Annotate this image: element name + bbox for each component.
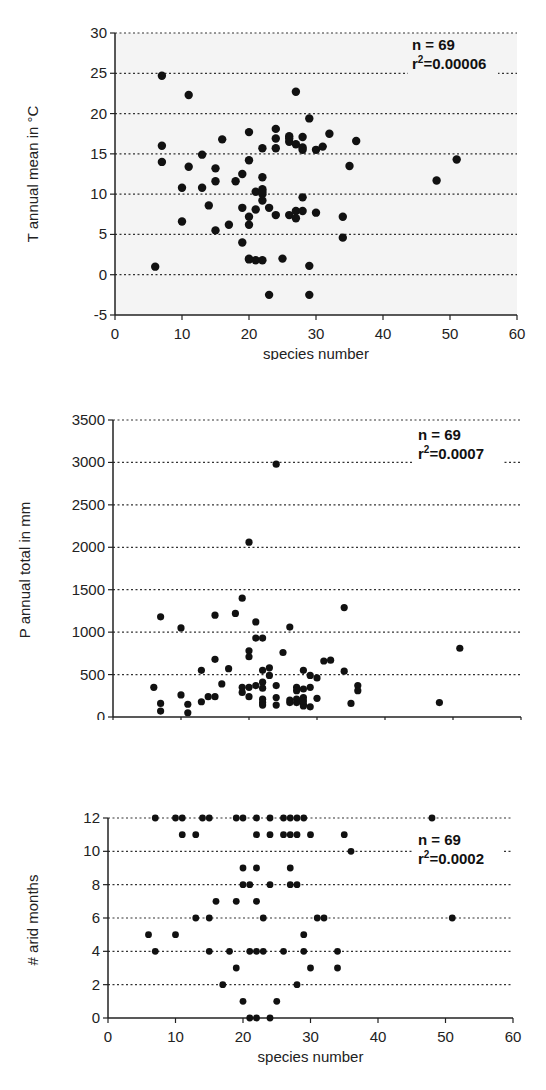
data-point [219, 981, 226, 988]
data-point [300, 697, 307, 704]
data-point [206, 815, 213, 822]
data-point [239, 689, 246, 696]
data-point [314, 915, 321, 922]
data-point [198, 150, 206, 158]
data-point [307, 831, 314, 838]
data-point [213, 898, 220, 905]
data-point [233, 965, 240, 972]
data-point [238, 204, 246, 212]
data-point [352, 137, 360, 145]
data-point [253, 865, 260, 872]
data-point [298, 193, 306, 201]
data-point [240, 881, 247, 888]
data-point [225, 221, 233, 229]
data-point [205, 693, 212, 700]
data-point [179, 831, 186, 838]
data-point [258, 188, 266, 196]
data-point [211, 612, 218, 619]
y-tick-label: -5 [94, 306, 107, 323]
data-point [184, 701, 191, 708]
y-tick-label: 5 [99, 225, 107, 242]
data-point [199, 815, 206, 822]
data-point [273, 998, 280, 1005]
y-tick-label: 2000 [72, 538, 105, 555]
data-point [449, 915, 456, 922]
data-point [152, 948, 159, 955]
y-tick-label: 2 [92, 976, 100, 993]
x-tick-label: 30 [308, 325, 325, 342]
data-point [300, 815, 307, 822]
data-point [157, 700, 164, 707]
y-tick-label: 25 [90, 64, 107, 81]
chart-temperature: -50510152025300102030405060species numbe… [0, 0, 546, 360]
data-point [185, 163, 193, 171]
y-tick-label: 15 [90, 145, 107, 162]
data-point [267, 881, 274, 888]
y-tick-label: 0 [92, 1009, 100, 1026]
data-point [211, 693, 218, 700]
x-tick-label: 60 [509, 325, 526, 342]
data-point [300, 948, 307, 955]
data-point [300, 685, 307, 692]
data-point [151, 262, 159, 270]
data-point [172, 815, 179, 822]
data-point [218, 135, 226, 143]
data-point [252, 618, 259, 625]
plot-area [115, 33, 517, 315]
data-point [305, 114, 313, 122]
data-point [231, 177, 239, 185]
data-point [240, 865, 247, 872]
data-point [150, 684, 157, 691]
data-point [341, 831, 348, 838]
data-point [252, 634, 259, 641]
data-point [312, 208, 320, 216]
x-tick-label: 50 [442, 325, 459, 342]
stats-annotation: n = 69r2=0.0002 [414, 830, 504, 870]
data-point [294, 815, 301, 822]
y-tick-label: 1500 [72, 581, 105, 598]
data-point [325, 130, 333, 138]
y-tick-label: 1000 [72, 623, 105, 640]
data-point [292, 88, 300, 96]
data-point [321, 915, 328, 922]
data-point [334, 948, 341, 955]
data-point [298, 207, 306, 215]
data-point [280, 948, 287, 955]
data-point [253, 948, 260, 955]
data-point [453, 155, 461, 163]
data-point [347, 700, 354, 707]
data-point [184, 709, 191, 716]
data-point [177, 691, 184, 698]
sample-size-label: n = 69 [418, 831, 461, 848]
data-point [152, 815, 159, 822]
sample-size-label: n = 69 [412, 36, 455, 53]
y-axis-title: P annual total in mm [16, 502, 33, 638]
data-point [285, 134, 293, 142]
data-point [292, 214, 300, 222]
x-tick-label: 60 [505, 1028, 522, 1045]
data-point [245, 653, 252, 660]
y-tick-label: 500 [80, 666, 105, 683]
data-point [298, 133, 306, 141]
data-point [178, 217, 186, 225]
data-point [267, 1015, 274, 1022]
x-tick-label: 50 [437, 1028, 454, 1045]
data-point [273, 682, 280, 689]
x-tick-label: 10 [167, 1028, 184, 1045]
data-point [253, 815, 260, 822]
data-point [319, 142, 327, 150]
data-point [279, 649, 286, 656]
data-point [198, 698, 205, 705]
y-tick-label: 2500 [72, 496, 105, 513]
y-tick-label: 10 [90, 185, 107, 202]
data-point [456, 645, 463, 652]
data-point [341, 668, 348, 675]
data-point [178, 183, 186, 191]
data-point [240, 998, 247, 1005]
data-point [246, 948, 253, 955]
data-point [240, 815, 247, 822]
data-point [300, 667, 307, 674]
data-point [313, 695, 320, 702]
data-point [272, 134, 280, 142]
data-point [334, 965, 341, 972]
